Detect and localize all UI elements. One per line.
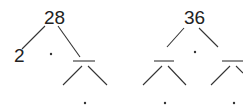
tree1-right-branch [58,26,80,57]
factor-tree-28: 28 2 [14,7,107,104]
tree1-left-leaf: 2 [14,45,25,66]
tree2-right-sub-left-branch [211,66,230,85]
tree2-left-sub-right-branch [168,66,186,85]
tree1-sub-multiply-dot [84,102,86,104]
tree1-left-branch [22,26,45,49]
factor-tree-36: 36 [143,7,243,104]
tree2-multiply-dot [194,51,196,53]
tree2-right-sub-right-branch [236,66,243,73]
tree2-left-branch [167,28,184,47]
tree2-left-sub-multiply-dot [164,102,166,104]
tree2-root-number: 36 [184,7,205,28]
tree2-left-sub-left-branch [143,66,162,85]
tree1-sub-right-branch [88,66,107,85]
tree2-right-branch [199,28,218,47]
tree2-right-sub-multiply-dot [233,102,235,104]
tree1-multiply-dot [50,53,52,55]
factor-trees-diagram: 28 2 36 [0,0,243,108]
tree1-root-number: 28 [44,7,65,28]
tree1-sub-left-branch [63,66,82,85]
